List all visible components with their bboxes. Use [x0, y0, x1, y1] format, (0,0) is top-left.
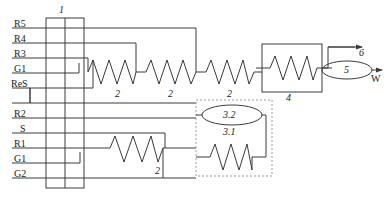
terminal-label-r2: R2	[14, 109, 26, 119]
box-4-outline	[262, 44, 322, 92]
wire-r4	[46, 43, 136, 60]
arrow-w-label: W	[371, 74, 380, 84]
resistor-box4	[256, 56, 328, 80]
resistor-top-3	[206, 60, 254, 84]
wire-r5	[46, 28, 196, 60]
resistor-ref-top-1: 2	[115, 89, 120, 99]
resistor-31-ref: 3.1	[223, 127, 236, 137]
arrow-6-label: 6	[359, 48, 364, 58]
terminal-label-res: ReS	[11, 79, 28, 89]
resistor-31	[196, 144, 252, 170]
terminal-label-r3: R3	[14, 49, 26, 59]
box-4-ref: 4	[286, 93, 291, 103]
wire-g1-lower	[46, 152, 80, 163]
wire-res	[46, 60, 93, 88]
resistor-top-1	[88, 58, 136, 84]
terminal-label-r4: R4	[14, 34, 26, 44]
terminal-label-r1: R1	[14, 139, 26, 149]
terminal-block-ref: 1	[59, 5, 64, 15]
terminal-label-r5: R5	[14, 19, 26, 29]
terminal-label-g2: G2	[14, 169, 26, 179]
ellipse-5-ref: 5	[344, 65, 349, 75]
schematic-diagram	[0, 0, 390, 202]
terminal-label-g1-upper: G1	[14, 64, 26, 74]
terminal-label-s: S	[20, 124, 26, 134]
wire-chain-2-3	[196, 60, 206, 72]
resistor-ref-bottom-1: 2	[155, 166, 160, 176]
resistor-top-2	[146, 60, 196, 84]
wire-g1-upper	[46, 63, 79, 73]
resistor-ref-top-2: 2	[168, 89, 173, 99]
resistor-bottom-1	[110, 136, 196, 162]
terminal-label-g1-lower: G1	[14, 154, 26, 164]
ellipse-32-ref: 3.2	[223, 110, 236, 120]
resistor-ref-top-3: 2	[227, 89, 232, 99]
